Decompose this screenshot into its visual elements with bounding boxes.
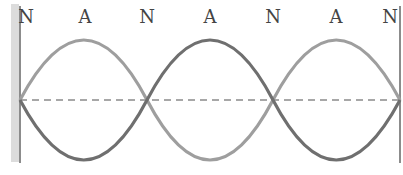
label-node-2: N xyxy=(139,6,155,27)
left-wall-shading xyxy=(11,4,19,162)
label-node-1: N xyxy=(18,6,34,27)
standing-wave-diagram: N A N A N A N xyxy=(0,0,403,175)
label-antinode-2: A xyxy=(203,6,218,27)
node-antinode-labels: N A N A N A N xyxy=(18,6,398,27)
wave-envelope-dark xyxy=(20,40,400,160)
wave-envelope-light xyxy=(20,40,400,160)
label-antinode-1: A xyxy=(78,6,93,27)
label-node-3: N xyxy=(265,6,281,27)
label-antinode-3: A xyxy=(329,6,344,27)
label-node-4: N xyxy=(382,6,398,27)
